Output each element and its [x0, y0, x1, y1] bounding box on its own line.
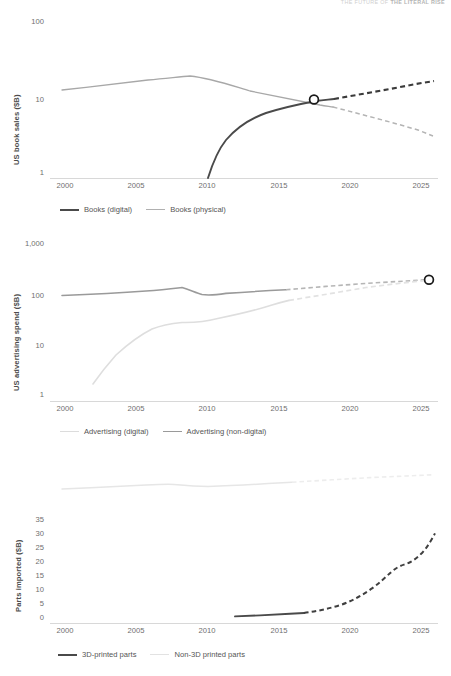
x-tick: 2015: [271, 626, 288, 635]
chart-book-sales-legend: Books (digital) Books (physical): [60, 205, 226, 214]
x-tick: 2015: [271, 181, 288, 190]
chart-parts-imported-x-axis: [50, 623, 438, 624]
legend-label: Books (physical): [170, 205, 226, 214]
y-tick: 25: [22, 543, 44, 552]
series-books-digital-dashed: [334, 81, 434, 99]
chart-advertising-spend: US advertising spend ($B) 1,000 100 10 1: [0, 228, 451, 452]
y-tick: 10: [22, 585, 44, 594]
legend-swatch-line-icon: [163, 431, 182, 432]
series-advertising-nondigital-solid: [62, 288, 286, 296]
legend-swatch-line-icon: [146, 209, 165, 210]
x-tick: 2010: [199, 626, 216, 635]
x-tick: 2005: [128, 404, 145, 413]
y-tick: 1: [14, 390, 44, 399]
legend-item-books-physical[interactable]: Books (physical): [146, 205, 226, 214]
legend-label: Non-3D printed parts: [174, 650, 245, 659]
y-tick: 10: [14, 341, 44, 350]
chart-parts-imported: Parts imported ($B) 35 30 25 20 15 10 5 …: [0, 452, 451, 676]
chart-parts-imported-offscale-area: [50, 460, 438, 502]
x-tick: 2005: [128, 626, 145, 635]
x-tick: 2010: [199, 404, 216, 413]
legend-swatch-line-icon: [60, 209, 79, 211]
y-tick: 1: [18, 168, 44, 177]
series-advertising-digital-solid: [93, 300, 289, 384]
y-tick: 20: [22, 557, 44, 566]
legend-label: 3D-printed parts: [82, 650, 136, 659]
y-tick: 30: [22, 529, 44, 538]
chart-book-sales-plot-area: [50, 10, 438, 178]
chart-advertising-spend-legend: Advertising (digital) Advertising (non-d…: [60, 427, 266, 436]
x-tick: 2020: [342, 626, 359, 635]
series-non-3d-printed-parts-dashed: [292, 475, 432, 482]
y-tick: 100: [18, 17, 44, 26]
chart-parts-imported-legend: 3D-printed parts Non-3D printed parts: [58, 650, 245, 659]
series-books-digital-solid: [208, 99, 334, 178]
x-tick: 2025: [413, 626, 430, 635]
x-tick: 2025: [413, 404, 430, 413]
chart-advertising-spend-plot-area: [50, 236, 438, 401]
legend-swatch-line-icon: [58, 654, 77, 656]
series-books-physical-dashed: [333, 107, 433, 136]
legend-item-books-digital[interactable]: Books (digital): [60, 205, 132, 214]
y-tick: 15: [22, 571, 44, 580]
legend-swatch-line-icon: [150, 654, 169, 655]
legend-swatch-line-icon: [60, 431, 79, 432]
legend-label: Advertising (non-digital): [187, 427, 267, 436]
y-tick: 100: [14, 291, 44, 300]
y-tick: 10: [18, 95, 44, 104]
legend-item-non-3d-printed-parts[interactable]: Non-3D printed parts: [150, 650, 245, 659]
y-tick: 1,000: [14, 239, 44, 248]
legend-label: Advertising (digital): [84, 427, 149, 436]
endpoint-marker: [425, 275, 434, 284]
x-tick: 2000: [57, 404, 74, 413]
legend-item-advertising-digital[interactable]: Advertising (digital): [60, 427, 149, 436]
x-tick: 2025: [413, 181, 430, 190]
series-3d-printed-parts-dashed: [304, 533, 435, 613]
chart-book-sales: US book sales ($B) 100 10 1 2000: [0, 0, 451, 228]
y-tick: 35: [22, 515, 44, 524]
series-non-3d-printed-parts-solid: [62, 482, 292, 489]
y-tick: 0: [22, 613, 44, 622]
x-tick: 2000: [57, 626, 74, 635]
chart-book-sales-y-axis-label: US book sales ($B): [12, 94, 21, 165]
x-tick: 2020: [342, 404, 359, 413]
legend-item-advertising-nondigital[interactable]: Advertising (non-digital): [163, 427, 267, 436]
x-tick: 2020: [342, 181, 359, 190]
series-books-physical-solid: [62, 76, 333, 107]
infographic-page: THE FUTURE OF THE LITERAL RISE US book s…: [0, 0, 451, 676]
series-3d-printed-parts-solid: [235, 613, 304, 616]
x-tick: 2015: [271, 404, 288, 413]
crossover-marker: [310, 95, 319, 104]
x-tick: 2005: [128, 181, 145, 190]
series-advertising-digital-dashed: [289, 280, 429, 300]
x-tick: 2010: [199, 181, 216, 190]
legend-label: Books (digital): [84, 205, 132, 214]
legend-item-3d-printed-parts[interactable]: 3D-printed parts: [58, 650, 136, 659]
x-tick: 2000: [57, 181, 74, 190]
chart-parts-imported-plot-area: [50, 511, 438, 623]
chart-advertising-spend-x-axis: [50, 401, 438, 402]
y-tick: 5: [22, 599, 44, 608]
chart-book-sales-x-axis: [50, 178, 438, 179]
